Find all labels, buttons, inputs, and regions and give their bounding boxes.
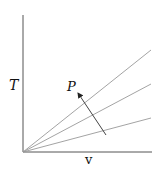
isobar-line-1: [23, 50, 151, 152]
diagram-canvas: [0, 0, 161, 176]
arrow-label: P: [67, 79, 76, 94]
isobar-line-2: [23, 84, 151, 152]
tv-diagram: T v P: [0, 0, 161, 176]
x-axis-label: v: [85, 152, 92, 167]
pressure-arrow: [78, 93, 106, 135]
y-axis-label: T: [9, 77, 18, 93]
isobar-line-3: [23, 118, 151, 152]
